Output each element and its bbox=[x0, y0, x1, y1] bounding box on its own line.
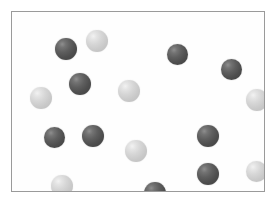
particle-dark bbox=[82, 125, 104, 147]
particle-scene bbox=[0, 0, 275, 208]
particle-dark bbox=[167, 44, 188, 65]
particle-dark bbox=[197, 125, 219, 147]
particle-dark bbox=[144, 182, 166, 192]
particle-light bbox=[30, 87, 52, 109]
particle-dark bbox=[197, 163, 219, 185]
particle-dark bbox=[44, 127, 65, 148]
particle-panel bbox=[11, 11, 265, 192]
particle-light bbox=[246, 89, 265, 111]
particle-light bbox=[118, 80, 140, 102]
particle-dark bbox=[55, 38, 77, 60]
particle-dark bbox=[69, 73, 91, 95]
particle-light bbox=[246, 161, 266, 182]
particle-light bbox=[86, 30, 108, 52]
particle-dark bbox=[221, 59, 242, 80]
particle-light bbox=[51, 175, 73, 192]
particle-light bbox=[125, 140, 147, 162]
